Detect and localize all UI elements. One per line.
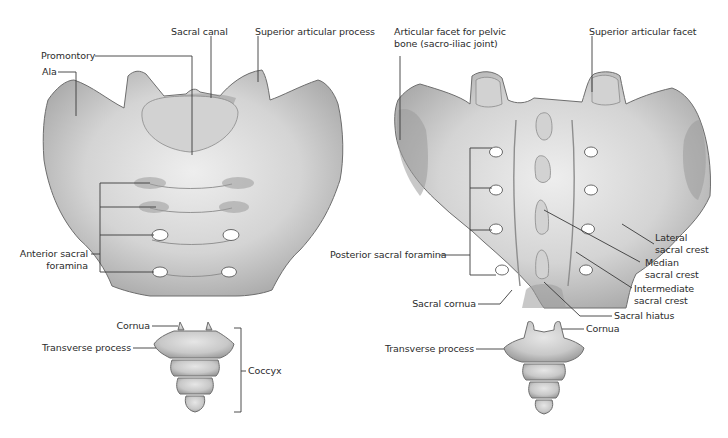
posterior-coccyx [504,321,584,414]
label-anterior-transverse-process: Transverse process [30,342,131,354]
label-articular-facet-line1: Articular facet for pelvic [394,26,506,38]
sacrum-coccyx-diagram: Sacral canal Superior articular process … [0,0,728,438]
label-anterior-sacral-foramina-line1: Anterior sacral [8,248,88,260]
label-anterior-cornua: Cornua [100,320,150,332]
label-lateral-sacral-crest-line1: Lateral [655,232,709,244]
label-median-sacral-crest-line1: Median [645,257,699,269]
label-posterior-transverse-process: Transverse process [370,343,474,355]
anterior-sacrum [43,70,343,296]
label-sacral-canal: Sacral canal [171,26,228,38]
label-superior-articular-facet: Superior articular facet [589,26,697,38]
bone-illustrations [0,0,728,438]
label-ala: Ala [42,66,57,78]
label-superior-articular-process: Superior articular process [255,26,375,38]
label-lateral-sacral-crest: Lateral sacral crest [655,232,709,256]
label-lateral-sacral-crest-line2: sacral crest [655,244,709,256]
label-sacral-hiatus: Sacral hiatus [614,310,674,322]
label-promontory: Promontory [41,50,95,62]
anterior-coccyx [154,322,234,412]
label-intermediate-sacral-crest: Intermediate sacral crest [634,283,694,307]
label-anterior-sacral-foramina-line2: foramina [8,260,88,272]
label-posterior-cornua: Cornua [586,323,619,335]
label-anterior-sacral-foramina: Anterior sacral foramina [8,248,88,272]
label-coccyx: Coccyx [248,365,282,377]
label-sacral-cornua: Sacral cornua [410,298,476,310]
label-articular-facet: Articular facet for pelvic bone (sacro-i… [394,26,506,50]
label-articular-facet-line2: bone (sacro-iliac joint) [394,38,506,50]
label-posterior-sacral-foramina: Posterior sacral foramina [330,249,438,261]
label-median-sacral-crest-line2: sacral crest [645,269,699,281]
label-intermediate-sacral-crest-line1: Intermediate [634,283,694,295]
label-intermediate-sacral-crest-line2: sacral crest [634,295,694,307]
label-median-sacral-crest: Median sacral crest [645,257,699,281]
